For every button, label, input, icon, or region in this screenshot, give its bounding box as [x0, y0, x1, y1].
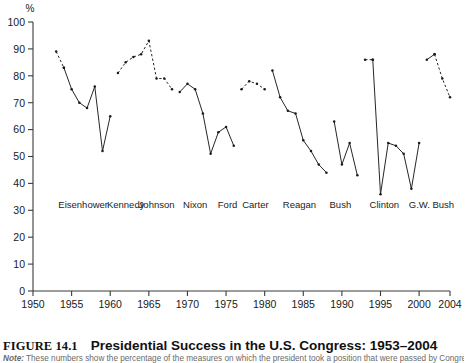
data-point-marker	[240, 88, 243, 91]
x-tick-label: 1950	[21, 298, 45, 310]
president-label-clinton: Clinton	[370, 199, 400, 210]
x-tick-label: 1970	[176, 298, 200, 310]
data-point-marker	[348, 142, 351, 145]
data-point-marker	[70, 88, 73, 91]
data-point-marker	[302, 139, 305, 142]
x-tick-label: 1980	[253, 298, 277, 310]
data-point-marker	[78, 101, 81, 104]
data-series-group	[55, 40, 451, 196]
y-tick-label: 20	[13, 231, 25, 243]
data-point-marker	[410, 188, 413, 191]
data-point-marker	[148, 40, 151, 43]
data-point-marker	[449, 96, 452, 99]
data-point-marker	[364, 58, 367, 61]
president-label-g-w-bush: G.W. Bush	[409, 199, 454, 210]
data-point-marker	[279, 96, 282, 99]
y-tick-label: 50	[13, 150, 25, 162]
series-line-eisenhower	[56, 52, 64, 68]
data-point-marker	[387, 142, 390, 145]
data-point-marker	[317, 163, 320, 166]
data-point-marker	[433, 53, 436, 56]
series-line-eisenhower-nixon-ford	[64, 68, 110, 151]
data-point-marker	[55, 50, 58, 53]
president-label-eisenhower: Eisenhower	[58, 199, 108, 210]
x-tick-label: 1975	[214, 298, 238, 310]
figure-root: 0102030405060708090100 19501955196019651…	[0, 0, 467, 363]
data-point-marker	[225, 126, 228, 129]
data-point-marker	[341, 163, 344, 166]
figure-title: Presidential Success in the U.S. Congres…	[91, 338, 438, 353]
x-tick-label: 1985	[292, 298, 316, 310]
data-point-marker	[132, 56, 135, 59]
series-line-nixon-ford	[180, 84, 234, 154]
data-point-marker	[263, 88, 266, 91]
data-point-marker	[310, 150, 313, 153]
y-axis: 0102030405060708090100	[7, 16, 33, 297]
data-point-marker	[209, 153, 212, 156]
data-point-marker	[248, 80, 251, 83]
data-point-marker	[163, 77, 166, 80]
y-tick-label: 80	[13, 70, 25, 82]
series-line-reagan-bush	[272, 70, 326, 172]
x-tick-label: 1965	[137, 298, 161, 310]
y-tick-label: 0	[19, 285, 25, 297]
data-point-marker	[86, 107, 89, 110]
data-point-marker	[395, 144, 398, 147]
data-point-marker	[379, 193, 382, 196]
data-point-marker	[94, 85, 97, 88]
data-point-marker	[202, 112, 205, 115]
data-point-marker	[271, 69, 274, 72]
series-line-gw-bush	[435, 54, 450, 97]
presidential-success-line-chart: 0102030405060708090100 19501955196019651…	[0, 0, 467, 335]
data-point-marker	[140, 53, 143, 56]
president-label-ford: Ford	[218, 199, 238, 210]
data-point-marker	[63, 66, 66, 69]
y-tick-label: 70	[13, 97, 25, 109]
series-line-bush	[334, 122, 357, 176]
president-label-reagan: Reagan	[283, 199, 316, 210]
x-tick-label: 2000	[407, 298, 431, 310]
data-point-marker	[356, 174, 359, 177]
data-point-marker	[194, 88, 197, 91]
data-point-marker	[171, 88, 174, 91]
president-labels: EisenhowerKennedyJohnsonNixonFordCarterR…	[58, 199, 454, 210]
figure-caption: FIGURE 14.1Presidential Success in the U…	[0, 335, 467, 363]
data-point-marker	[294, 112, 297, 115]
data-point-marker	[178, 91, 181, 94]
data-point-marker	[333, 120, 336, 123]
x-tick-label: 1995	[369, 298, 393, 310]
president-label-carter: Carter	[242, 199, 268, 210]
y-tick-label: 10	[13, 258, 25, 270]
data-point-marker	[117, 72, 120, 75]
x-axis: 1950195519601965197019751980198519901995…	[21, 291, 462, 310]
data-point-marker	[186, 83, 189, 86]
data-point-marker	[418, 142, 421, 145]
president-label-johnson: Johnson	[139, 199, 175, 210]
data-point-marker	[155, 77, 158, 80]
data-point-marker	[441, 77, 444, 80]
x-tick-label: 1955	[60, 298, 84, 310]
series-line-clinton	[373, 60, 419, 195]
x-tick-label: 1990	[330, 298, 354, 310]
series-line-kennedy-johnson	[118, 41, 172, 89]
data-point-marker	[287, 110, 290, 113]
y-axis-unit-label: %	[26, 3, 35, 14]
data-point-marker	[325, 171, 328, 174]
data-point-marker	[109, 115, 112, 118]
series-line-carter	[242, 81, 265, 89]
data-point-marker	[124, 61, 127, 64]
y-tick-label: 90	[13, 43, 25, 55]
x-tick-label: 2004	[438, 298, 462, 310]
y-tick-label: 100	[7, 16, 25, 28]
figure-note: Note: These numbers show the percentage …	[3, 354, 464, 363]
note-label: Note:	[3, 354, 24, 363]
data-point-marker	[101, 150, 104, 153]
chart-plot-area: 0102030405060708090100 19501955196019651…	[0, 0, 467, 335]
x-tick-label: 1960	[99, 298, 123, 310]
series-line-gw-bush-start	[427, 54, 435, 59]
figure-number: FIGURE 14.1	[3, 339, 78, 353]
data-point-marker	[256, 83, 259, 86]
caption-title-line: FIGURE 14.1Presidential Success in the U…	[3, 336, 437, 354]
data-point-marker	[372, 58, 375, 61]
data-point-marker	[402, 153, 405, 156]
